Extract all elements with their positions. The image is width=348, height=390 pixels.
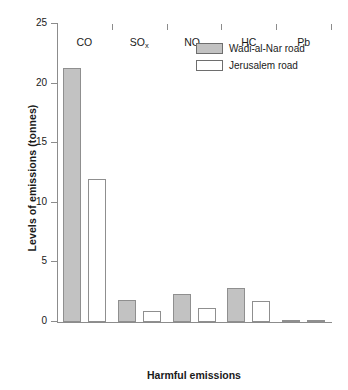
legend-item: Wadi-al-Nar road xyxy=(196,41,305,56)
y-axis-tick-label: 10 xyxy=(21,195,47,208)
y-axis-tick: 10 xyxy=(51,202,57,203)
x-axis-tick-label: SOx xyxy=(109,36,169,48)
y-axis-tick: 5 xyxy=(51,261,57,262)
x-axis-tick xyxy=(331,24,332,30)
legend-swatch-icon xyxy=(196,60,223,71)
y-axis-tick-label: 0 xyxy=(21,314,47,327)
legend-item: Jerusalem road xyxy=(196,58,305,73)
x-axis-tick xyxy=(221,24,222,30)
x-axis-tick-label: CO xyxy=(54,36,114,48)
bar-SOx-jerusalem xyxy=(143,311,161,322)
y-axis-title: Levels of emissions (tonnes) xyxy=(26,78,38,278)
y-axis-tick: 20 xyxy=(51,83,57,84)
bar-SOx-wadi-al-nar xyxy=(118,300,136,322)
x-axis-tick xyxy=(167,24,168,30)
chart-legend: Wadi-al-Nar roadJerusalem road xyxy=(196,41,305,75)
bar-NOx-wadi-al-nar xyxy=(173,294,191,322)
emissions-bar-chart: Levels of emissions (tonnes) Harmful emi… xyxy=(0,0,348,390)
y-axis-tick-label: 15 xyxy=(21,135,47,148)
bar-Pb-wadi-al-nar xyxy=(282,320,300,322)
x-axis-line xyxy=(57,322,332,323)
bar-CO-wadi-al-nar xyxy=(63,68,81,322)
x-axis-tick xyxy=(57,24,58,30)
y-axis-tick-label: 20 xyxy=(21,76,47,89)
y-axis-tick: 15 xyxy=(51,142,57,143)
x-axis-tick xyxy=(112,24,113,30)
y-axis-tick: 0 xyxy=(51,321,57,322)
legend-swatch-icon xyxy=(196,43,223,54)
x-axis-tick xyxy=(276,24,277,30)
legend-label: Jerusalem road xyxy=(229,60,298,71)
bar-CO-jerusalem xyxy=(88,179,106,322)
bar-NOx-jerusalem xyxy=(198,308,216,322)
y-axis-tick-label: 5 xyxy=(21,254,47,267)
x-axis-title: Harmful emissions xyxy=(56,369,332,381)
legend-label: Wadi-al-Nar road xyxy=(229,43,305,54)
y-axis-tick-label: 25 xyxy=(21,16,47,29)
bar-Pb-jerusalem xyxy=(307,320,325,322)
bar-HC-jerusalem xyxy=(252,301,270,322)
bar-HC-wadi-al-nar xyxy=(227,288,245,322)
